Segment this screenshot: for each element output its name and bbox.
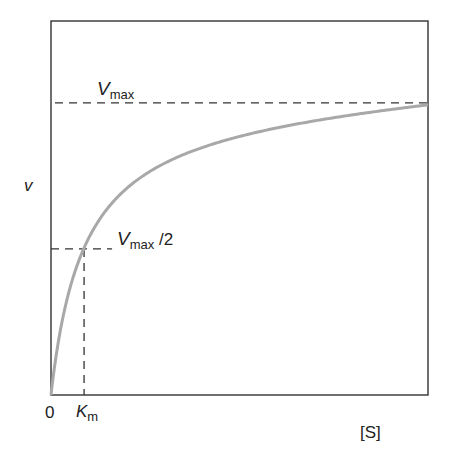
y-axis-label: v bbox=[24, 177, 33, 194]
michaelis-menten-chart bbox=[0, 0, 450, 458]
x-axis-label: [S] bbox=[360, 424, 381, 441]
saturation-curve bbox=[51, 105, 428, 395]
vmax-label: Vmax bbox=[97, 79, 134, 98]
half-vmax-label: Vmax /2 bbox=[117, 229, 173, 248]
km-tick-label: Km bbox=[76, 403, 98, 420]
origin-tick-label: 0 bbox=[45, 404, 54, 421]
